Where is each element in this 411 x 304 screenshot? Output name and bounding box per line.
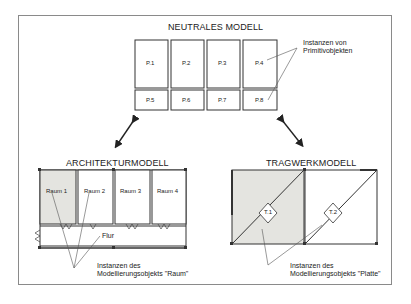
- neutral-annotation-2: Primitivobjekten: [303, 47, 352, 55]
- neutral-model-title: NEUTRALES MODELL: [168, 22, 263, 32]
- cell-p7: P.7: [218, 97, 226, 103]
- cell-p6: P.6: [182, 97, 190, 103]
- cell-p3: P.3: [218, 60, 226, 66]
- cell-p5: P.5: [146, 97, 154, 103]
- structural-model-title: TRAGWERKMODELL: [266, 158, 356, 168]
- architecture-annotation-2: Modellierungsobjekts "Raum": [97, 270, 188, 278]
- structural-annotation-2: Modellierungsobjekts "Platte": [290, 270, 381, 278]
- room-1: Raum 1: [46, 188, 67, 194]
- cell-p8: P.8: [255, 97, 263, 103]
- plate-t1: T.1: [264, 209, 272, 215]
- room-4: Raum 4: [157, 188, 178, 194]
- diagram-graphics: [0, 0, 411, 304]
- room-3: Raum 3: [120, 188, 141, 194]
- room-2: Raum 2: [84, 188, 105, 194]
- neutral-annotation-1: Instanzen von: [303, 39, 347, 47]
- architecture-model-title: ARCHITEKTURMODELL: [66, 158, 169, 168]
- cell-p1: P.1: [146, 60, 154, 66]
- plate-t2: T.2: [329, 209, 337, 215]
- architecture-annotation-1: Instanzen des: [97, 262, 141, 270]
- corridor-label: Flur: [102, 232, 114, 240]
- cell-p4: P.4: [255, 60, 263, 66]
- cell-p2: P.2: [182, 60, 190, 66]
- structural-plan: [232, 170, 377, 244]
- structural-annotation-1: Instanzen des: [290, 262, 334, 270]
